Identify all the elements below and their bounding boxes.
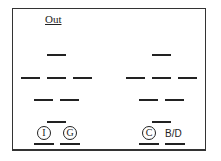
blank-line [152,121,171,123]
blank-line [165,99,184,101]
blank-line [152,54,171,56]
blank-line [139,99,158,101]
blank-line [73,77,92,79]
blank-line [47,54,66,56]
label-underline [34,143,54,145]
circled-label-g: G [63,126,77,140]
blank-line [47,77,66,79]
blank-line [34,99,53,101]
circled-label-c: C [142,126,156,140]
blank-line [126,77,145,79]
label-underline [139,143,159,145]
label-bd: B/D [165,128,182,139]
blank-line [152,77,171,79]
blank-line [47,121,66,123]
blank-line [178,77,197,79]
label-underline [165,143,185,145]
blank-line [21,77,40,79]
blank-line [60,99,79,101]
label-underline [60,143,80,145]
circled-label-i: I [37,126,51,140]
diagram-title: Out [45,13,62,25]
